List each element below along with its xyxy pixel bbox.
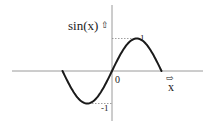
sine-plot: sin(x) ⇧ 1 0 -1 ⇨ x — [0, 0, 213, 129]
x-axis-label: x — [168, 80, 174, 94]
origin-label: 0 — [115, 74, 120, 85]
up-arrow-icon: ⇧ — [101, 20, 109, 30]
min-label: -1 — [101, 103, 109, 113]
max-label: 1 — [140, 33, 145, 43]
y-axis-label: sin(x) — [68, 18, 98, 33]
